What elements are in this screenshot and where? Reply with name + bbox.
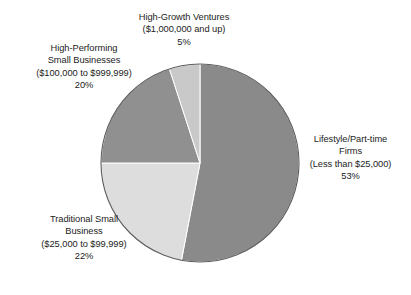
pie-label-traditional-small-business: Traditional Small Business ($25,000 to $…: [4, 213, 164, 263]
pie-label-line-name: Traditional Small: [4, 213, 164, 225]
pie-label-lifestyle-part-time-firms: Lifestyle/Part-time Firms (Less than $25…: [290, 133, 411, 183]
pie-label-line-range: ($25,000 to $99,999): [4, 238, 164, 250]
pie-label-line-percent: 20%: [4, 79, 164, 91]
pie-label-line-name: High-Growth Ventures: [99, 11, 269, 23]
pie-label-line-range: (Less than $25,000): [290, 158, 411, 170]
pie-label-line-percent: 53%: [290, 170, 411, 182]
pie-label-line-name: Lifestyle/Part-time: [290, 133, 411, 145]
pie-label-line-name-2: Small Businesses: [4, 54, 164, 66]
pie-label-line-name: High-Performing: [4, 42, 164, 54]
pie-label-high-performing-small-businesses: High-Performing Small Businesses ($100,0…: [4, 42, 164, 92]
pie-label-line-range: ($1,000,000 and up): [99, 23, 269, 35]
pie-label-line-name-2: Business: [4, 225, 164, 237]
pie-chart: High-Growth Ventures ($1,000,000 and up)…: [0, 0, 411, 295]
pie-label-line-range: ($100,000 to $999,999): [4, 67, 164, 79]
pie-label-line-name-2: Firms: [290, 145, 411, 157]
pie-label-line-percent: 22%: [4, 250, 164, 262]
